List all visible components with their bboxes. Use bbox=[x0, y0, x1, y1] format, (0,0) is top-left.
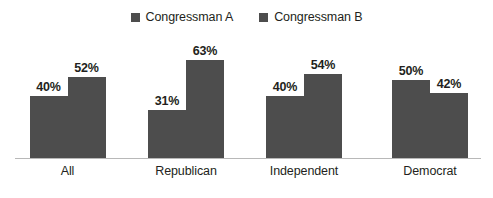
x-axis-label: Democrat bbox=[360, 164, 493, 180]
plot-area: 40%52%31%63%40%54%50%42% bbox=[0, 30, 493, 159]
bar-group: 40%52% bbox=[30, 30, 106, 159]
bar-group: 31%63% bbox=[148, 30, 224, 159]
bar[interactable] bbox=[392, 80, 430, 159]
legend-label-congressman-b: Congressman B bbox=[274, 11, 362, 24]
bar[interactable] bbox=[186, 60, 224, 159]
bar-value-label: 54% bbox=[311, 59, 335, 72]
bar-column: 31% bbox=[148, 30, 186, 159]
square-marker-icon bbox=[131, 13, 140, 22]
bar-column: 52% bbox=[68, 30, 106, 159]
bar-group-bars: 40%52% bbox=[30, 30, 106, 159]
bar-value-label: 40% bbox=[36, 81, 60, 94]
bar-column: 50% bbox=[392, 30, 430, 159]
bar-value-label: 31% bbox=[155, 95, 179, 108]
bar[interactable] bbox=[68, 77, 106, 159]
x-axis-baseline bbox=[15, 158, 481, 159]
bar[interactable] bbox=[430, 93, 468, 159]
bar-column: 42% bbox=[430, 30, 468, 159]
chart-legend: Congressman A Congressman B bbox=[0, 7, 493, 27]
bar[interactable] bbox=[304, 74, 342, 159]
bar-column: 40% bbox=[266, 30, 304, 159]
bar-value-label: 40% bbox=[273, 81, 297, 94]
bar-value-label: 52% bbox=[74, 62, 98, 75]
bar-value-label: 42% bbox=[437, 78, 461, 91]
bar-group-bars: 50%42% bbox=[392, 30, 468, 159]
bar-group-bars: 40%54% bbox=[266, 30, 342, 159]
legend-item-congressman-a[interactable]: Congressman A bbox=[131, 11, 234, 24]
bar-group: 40%54% bbox=[266, 30, 342, 159]
bar[interactable] bbox=[148, 110, 186, 159]
bar-value-label: 50% bbox=[399, 65, 423, 78]
legend-label-congressman-a: Congressman A bbox=[146, 11, 234, 24]
bar[interactable] bbox=[266, 96, 304, 159]
bar-column: 40% bbox=[30, 30, 68, 159]
bar-value-label: 63% bbox=[193, 45, 217, 58]
bar-group-bars: 31%63% bbox=[148, 30, 224, 159]
bar[interactable] bbox=[30, 96, 68, 159]
square-marker-icon bbox=[259, 13, 268, 22]
bar-chart: Congressman A Congressman B 40%52%31%63%… bbox=[0, 0, 493, 198]
x-axis-label: Independent bbox=[234, 164, 374, 180]
legend-item-congressman-b[interactable]: Congressman B bbox=[259, 11, 362, 24]
x-axis-labels: AllRepublicanIndependentDemocrat bbox=[0, 164, 493, 186]
bar-column: 63% bbox=[186, 30, 224, 159]
bar-group: 50%42% bbox=[392, 30, 468, 159]
bar-column: 54% bbox=[304, 30, 342, 159]
